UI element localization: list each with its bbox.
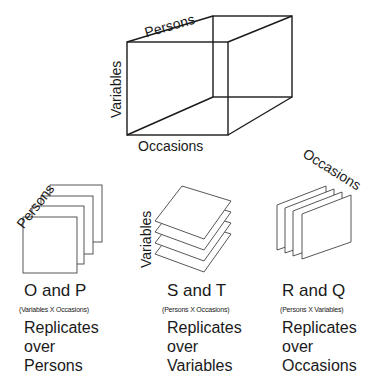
panel-st-desc-line2: over [167, 337, 242, 356]
cube-axis-variables-label: Variables [109, 61, 123, 118]
panel-st-desc-line1: Replicates [167, 318, 242, 337]
panel-op-desc-line2: over [24, 337, 99, 356]
panel-op-desc-line1: Replicates [24, 318, 99, 337]
panel-st-desc-line3: Variables [167, 356, 242, 375]
panel-rq-description: Replicates over Occasions [282, 318, 357, 375]
occasions-slices-icon [277, 186, 351, 259]
panel-rq-techniques: R and Q [282, 282, 345, 299]
panel-op-techniques: O and P [24, 282, 86, 299]
panel-rq-matrix: (Persons X Variables) [280, 306, 343, 313]
panel-rq-desc-line3: Occasions [282, 356, 357, 375]
variables-slices-icon [155, 186, 231, 272]
panel-st-description: Replicates over Variables [167, 318, 242, 375]
cube-axis-occasions-label: Occasions [138, 139, 203, 153]
panel-op-description: Replicates over Persons [24, 318, 99, 375]
panel-rq-desc-line1: Replicates [282, 318, 357, 337]
panel-variables-axis-label: Variables [139, 211, 153, 268]
panel-op-matrix: (Variables X Occasions) [19, 306, 89, 313]
panel-op-desc-line3: Persons [24, 356, 99, 375]
panel-st-matrix: (Persons X Occasions) [162, 306, 229, 313]
panel-st-techniques: S and T [167, 282, 226, 299]
panel-rq-desc-line2: over [282, 337, 357, 356]
